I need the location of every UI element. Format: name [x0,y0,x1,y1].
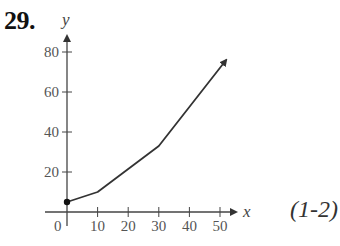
series-line [67,60,226,202]
line-chart: xy 0102030405020406080 [0,0,340,246]
x-axis-label: x [242,202,251,221]
ticks: 0102030405020406080 [44,44,228,234]
x-tick-label: 50 [213,218,228,234]
section-reference: (1-2) [290,196,338,223]
origin-label: 0 [54,218,62,234]
y-axis-label: y [60,10,70,29]
start-point-dot [64,199,70,205]
y-tick-label: 40 [44,124,59,140]
x-tick-label: 30 [151,218,166,234]
y-tick-label: 60 [44,84,59,100]
y-tick-label: 80 [44,44,59,60]
x-tick-label: 10 [90,218,105,234]
x-tick-label: 40 [182,218,197,234]
axes: xy [45,10,251,226]
y-tick-label: 20 [44,164,59,180]
x-tick-label: 20 [121,218,136,234]
data-series [64,60,226,205]
